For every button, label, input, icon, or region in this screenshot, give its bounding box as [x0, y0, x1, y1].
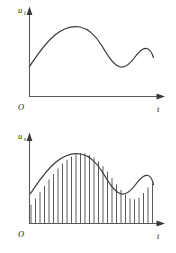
continuous-signal-curve — [30, 27, 154, 68]
y-axis-label: u — [18, 5, 22, 15]
y-axis-label: u — [18, 131, 22, 141]
signal-sampling-figure: u i t O u s t O — [0, 0, 176, 253]
y-axis-label-subscript: s — [24, 136, 26, 142]
origin-label: O — [18, 229, 24, 239]
sampled-signal-plot: u s t O — [0, 126, 176, 253]
y-axis-label-subscript: i — [24, 10, 26, 16]
x-axis-arrow-icon — [157, 221, 166, 227]
panel-sampled-signal: u s t O — [0, 126, 176, 253]
continuous-signal-plot: u i t O — [0, 0, 176, 126]
x-axis-label: t — [157, 104, 160, 114]
x-axis-label: t — [157, 231, 160, 241]
panel-continuous-signal: u i t O — [0, 0, 176, 126]
x-axis-arrow-icon — [157, 94, 166, 100]
origin-label: O — [18, 102, 24, 112]
y-axis-arrow-icon — [27, 7, 33, 16]
y-axis-arrow-icon — [27, 133, 33, 142]
sample-bar-group — [31, 154, 153, 224]
